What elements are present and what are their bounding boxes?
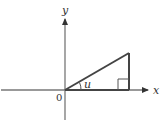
right-angle-marker bbox=[118, 79, 129, 90]
y-axis-label: y bbox=[61, 4, 69, 17]
angle-label: u bbox=[84, 78, 91, 91]
triangle-hypotenuse bbox=[65, 53, 129, 90]
angle-arc bbox=[80, 83, 82, 91]
x-axis-label: x bbox=[153, 84, 160, 97]
origin-label: 0 bbox=[56, 92, 62, 103]
diagram-canvas: y x 0 u bbox=[0, 0, 167, 123]
